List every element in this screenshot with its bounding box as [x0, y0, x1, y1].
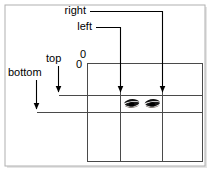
label-right: right — [65, 4, 86, 16]
label-bottom: bottom — [8, 66, 42, 78]
label-left: left — [77, 20, 92, 32]
diagram-figure: right left top bottom 0 0 — [0, 0, 211, 172]
diagram-canvas: right left top bottom 0 0 — [0, 0, 211, 172]
eyes-photo — [121, 96, 163, 113]
figure-frame — [5, 5, 207, 168]
label-top: top — [46, 52, 61, 64]
origin-y-label: 0 — [76, 58, 82, 70]
